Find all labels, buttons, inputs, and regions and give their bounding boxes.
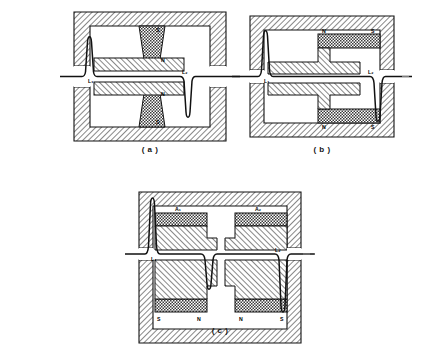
pole-label-n-right: N [239,316,243,322]
figure-b-drawing: L₁ L₂ N S N S [232,4,412,149]
figure-a: L₁ L₂ S N N S ( a ) [60,4,240,149]
pole-label-upper-s: S [371,28,375,34]
pole-piece-lower-left [155,260,217,299]
caption-b: ( b ) [232,145,412,154]
pole-label-lower-s: S [371,124,375,130]
magnet-lower [318,109,380,123]
pole-piece-lower [94,82,184,95]
pole-label-lower-n: N [161,91,165,97]
pole-label-n-left: N [197,316,201,322]
caption-c: ( c ) [125,326,315,335]
figure-b: L₁ L₂ N S N S ( b ) [232,4,412,149]
pole-label-lower-s: S [156,119,160,125]
contact-l1-text: L₁ [264,78,269,84]
pole-piece-lower [268,83,360,109]
label-contact-l2: L₂ [182,69,188,75]
magnet-label-a2: A₂ [255,206,262,212]
pole-label-lower-n: N [322,124,326,130]
magnet-upper [318,34,380,48]
pole-piece-upper [94,58,184,71]
pole-piece-upper-left [155,226,217,250]
caption-a: ( a ) [60,145,240,154]
pole-label-s-right: S [280,316,284,322]
contact-l2-text: L₂ [275,247,281,253]
pole-label-upper-n: N [322,28,326,34]
pole-piece-upper [268,48,360,74]
magnet-lower-right [235,299,287,312]
figure-a-drawing: L₁ L₂ S N N S [60,4,240,149]
pole-label-upper-n: N [161,57,165,63]
magnet-lower-left [155,299,207,312]
magnet-upper-right [235,213,287,226]
contact-l2-text: L₂ [182,69,188,75]
label-contact-l1: L₁ [88,78,93,84]
contact-l2-text: L₂ [368,69,374,75]
contact-l1-text: L₁ [88,78,93,84]
magnet-label-a1: A₁ [175,206,181,212]
figure-c: L₁ L₂ A₁ A₂ S N N S ( c ) [125,180,315,355]
pole-label-s-left: S [157,316,161,322]
pole-piece-lower-right [225,260,287,299]
pole-label-upper-s: S [156,27,160,33]
contact-l1-text: L₁ [151,256,156,262]
magnet-upper-left [155,213,207,226]
figure-sheet: L₁ L₂ S N N S ( a ) [0,0,431,355]
